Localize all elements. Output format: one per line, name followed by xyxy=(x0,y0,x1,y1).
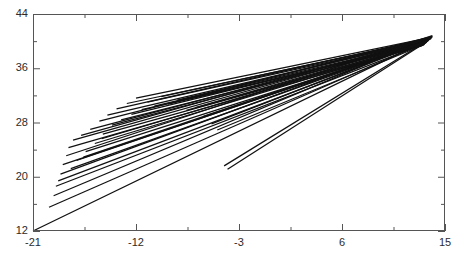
y-axis-tick-label: 12 xyxy=(16,224,28,236)
y-axis-tick-label: 44 xyxy=(16,7,28,19)
data-line-group xyxy=(33,36,432,231)
data-line xyxy=(196,40,429,107)
y-axis-tick-label: 28 xyxy=(16,116,28,128)
x-axis-tick-label: 6 xyxy=(322,236,362,248)
x-axis-tick-label: -3 xyxy=(219,236,259,248)
y-axis-tick-label: 20 xyxy=(16,170,28,182)
chart-figure: 1220283644 -21-12-3615 xyxy=(0,0,473,263)
x-axis-tick-label: -21 xyxy=(13,236,53,248)
data-line xyxy=(56,44,425,186)
data-line xyxy=(102,42,426,139)
x-axis-tick-label: 15 xyxy=(425,236,465,248)
y-axis-tick-label: 36 xyxy=(16,61,28,73)
data-line xyxy=(71,41,427,168)
data-line xyxy=(83,40,428,157)
x-axis-tick-label: -12 xyxy=(116,236,156,248)
plot-area xyxy=(0,0,473,263)
